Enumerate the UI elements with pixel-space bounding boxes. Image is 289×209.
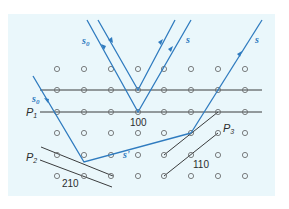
label-s-1: s xyxy=(185,34,190,45)
label-index-210: 210 xyxy=(62,178,79,189)
label-s-prime: s' xyxy=(122,149,130,160)
label-index-100: 100 xyxy=(130,117,147,128)
label-s-2: s xyxy=(254,34,259,45)
label-index-110: 110 xyxy=(193,159,209,170)
bragg-diffraction-diagram: s0 s0 s s s' P1 P2 P3 100 210 110 xyxy=(0,0,289,209)
